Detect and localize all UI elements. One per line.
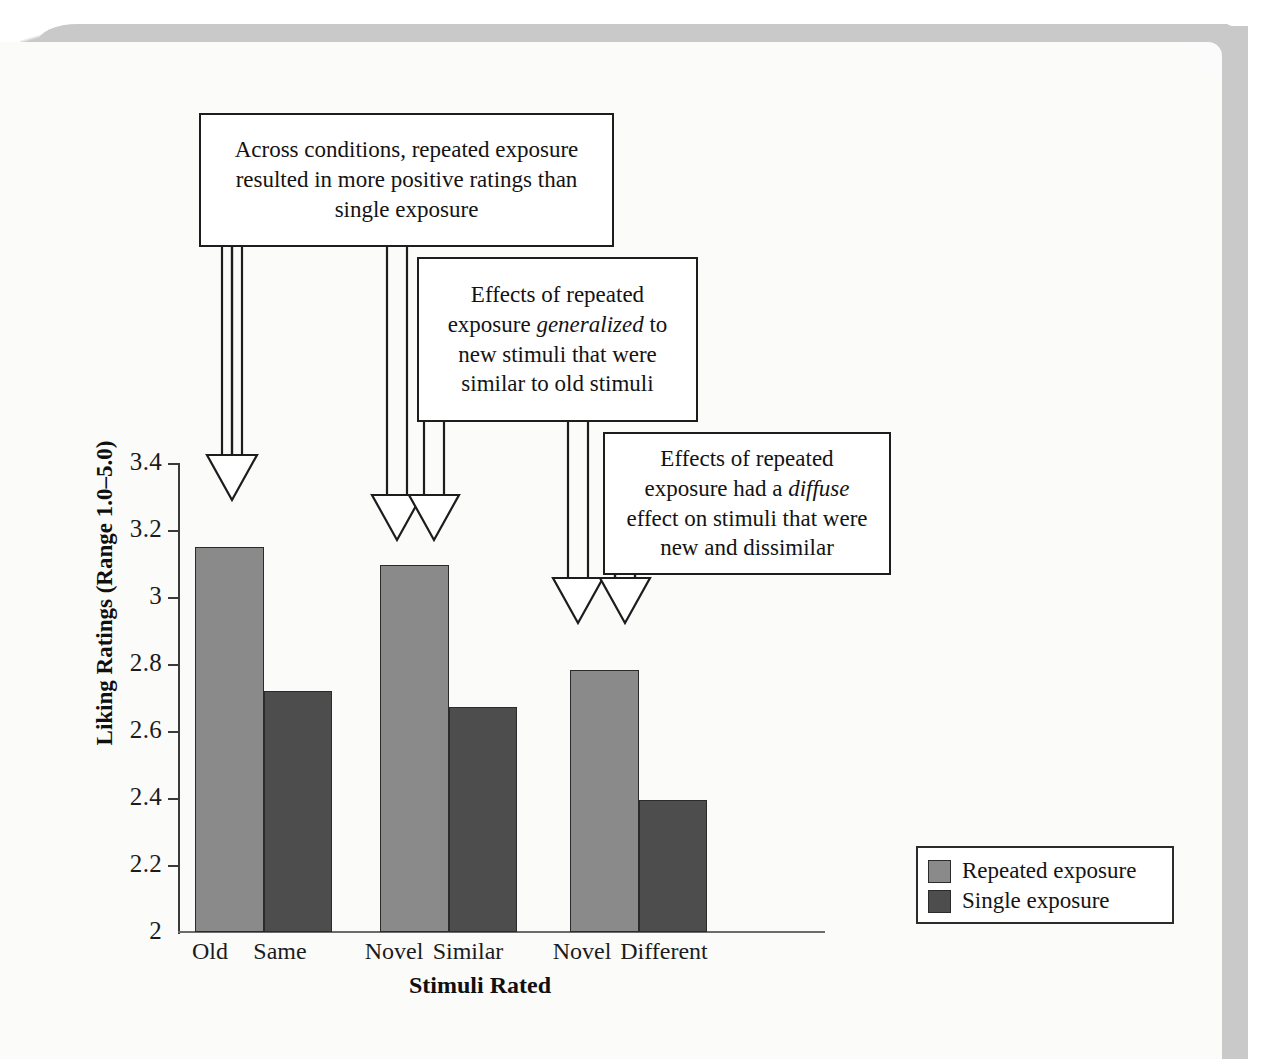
callout-box-diffuse: Effects of repeated exposure had a diffu… xyxy=(603,432,891,575)
bar-chart-figure: 3.4 3.2 3 2.8 2.6 2.4 2.2 2 Old Same Nov… xyxy=(0,0,1266,1059)
callout-3-text-after: effect on stimuli that were new and diss… xyxy=(627,506,868,561)
callout-2-text: Effects of repeated exposure generalized… xyxy=(431,280,684,400)
callout-2-emphasis: generalized xyxy=(536,312,643,337)
callout-box-generalized: Effects of repeated exposure generalized… xyxy=(417,257,698,422)
callout-3-text: Effects of repeated exposure had a diffu… xyxy=(617,444,877,564)
callout-3-emphasis: diffuse xyxy=(788,476,849,501)
callout-box-across-conditions: Across conditions, repeated exposure res… xyxy=(199,113,614,247)
callout-1-text: Across conditions, repeated exposure res… xyxy=(213,135,600,225)
